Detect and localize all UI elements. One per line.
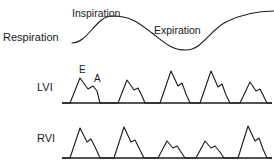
rvi-trace-label: RVI <box>37 133 55 144</box>
lvi-trace-label: LVI <box>37 82 53 93</box>
physiology-figure: Respiration Inspiration Expiration LVI R… <box>0 0 274 167</box>
expiration-phase-label: Expiration <box>154 25 201 36</box>
e-wave-label: E <box>79 65 86 75</box>
inspiration-phase-label: Inspiration <box>72 8 120 19</box>
respiration-trace-label: Respiration <box>3 32 59 43</box>
a-wave-label: A <box>94 74 101 84</box>
rvi-waveform <box>62 126 272 158</box>
